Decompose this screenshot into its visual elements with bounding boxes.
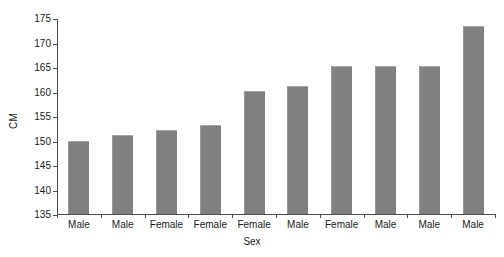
x-axis-tick [276, 214, 277, 218]
bar [287, 86, 308, 214]
y-axis-tick-label: 160 [21, 88, 51, 98]
bar [200, 125, 221, 214]
y-axis-tick-label: 170 [21, 39, 51, 49]
y-axis-tick [53, 117, 57, 118]
x-axis-tick-label: Female [145, 219, 189, 230]
y-axis-tick-label: 165 [21, 63, 51, 73]
bar [244, 91, 265, 214]
x-axis-tick-label: Male [101, 219, 145, 230]
y-axis-tick [53, 19, 57, 20]
y-axis-tick-label: 140 [21, 186, 51, 196]
plot-area: 135140145150155160165170175 MaleMaleFema… [57, 19, 495, 215]
y-axis-tick-label: 135 [21, 210, 51, 220]
bar-chart-figure: CM 135140145150155160165170175 MaleMaleF… [0, 0, 504, 257]
x-axis-tick-label: Female [320, 219, 364, 230]
caption-remnant [0, 250, 504, 255]
x-axis-tick [364, 214, 365, 218]
x-axis-tick [145, 214, 146, 218]
x-axis-tick [101, 214, 102, 218]
y-axis-tick [53, 142, 57, 143]
bar [68, 141, 89, 215]
y-axis-tick-label: 145 [21, 161, 51, 171]
y-axis-tick-label: 155 [21, 112, 51, 122]
bar [331, 66, 352, 214]
bar [419, 66, 440, 214]
bar [463, 26, 484, 214]
y-axis-tick [53, 44, 57, 45]
x-axis-title: Sex [0, 236, 504, 247]
bar [156, 130, 177, 214]
x-axis-tick-label: Male [407, 219, 451, 230]
y-axis-tick-label: 150 [21, 137, 51, 147]
y-axis-title: CM [4, 96, 22, 146]
x-axis-tick-label: Male [276, 219, 320, 230]
x-axis-tick [320, 214, 321, 218]
x-axis-tick-label: Female [188, 219, 232, 230]
x-axis-tick [188, 214, 189, 218]
y-axis-tick [53, 68, 57, 69]
x-axis-tick [57, 214, 58, 218]
y-axis-line [57, 19, 58, 215]
y-axis-tick [53, 166, 57, 167]
x-axis-tick-label: Male [57, 219, 101, 230]
x-axis-tick [451, 214, 452, 218]
x-axis-tick-label: Female [232, 219, 276, 230]
x-axis-tick [232, 214, 233, 218]
x-axis-tick [495, 214, 496, 218]
bar [112, 135, 133, 214]
x-axis-tick [407, 214, 408, 218]
x-axis-tick-label: Male [364, 219, 408, 230]
x-axis-tick-label: Male [451, 219, 495, 230]
y-axis-tick [53, 191, 57, 192]
bar [375, 66, 396, 214]
y-axis-tick [53, 93, 57, 94]
y-axis-tick-label: 175 [21, 14, 51, 24]
